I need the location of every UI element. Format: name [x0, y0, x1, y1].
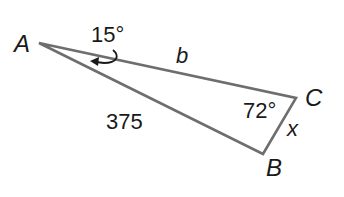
- angle-c-label: 72°: [243, 98, 276, 123]
- side-ab-label: 375: [106, 109, 143, 134]
- vertex-label-b: B: [266, 154, 282, 181]
- vertex-label-a: A: [12, 30, 30, 57]
- side-x-label: x: [286, 116, 299, 141]
- triangle-diagram: A 15° b 375 72° C x B: [0, 0, 344, 197]
- vertex-label-c: C: [305, 84, 323, 111]
- angle-a-label: 15°: [91, 22, 124, 47]
- side-b-label: b: [176, 43, 188, 68]
